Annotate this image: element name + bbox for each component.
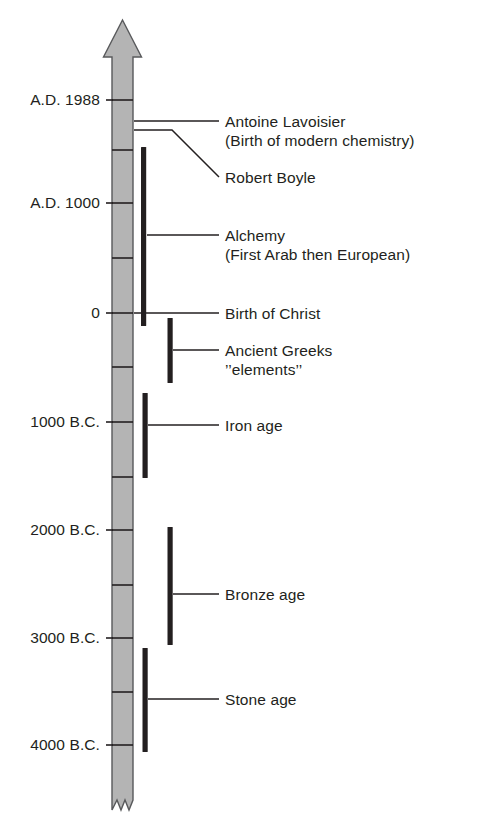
event-label-iron-age: Iron age: [225, 416, 283, 435]
timeline-figure: A.D. 1988 A.D. 1000 0 1000 B.C. 2000 B.C…: [0, 0, 483, 835]
event-title-ancient-greeks: Ancient Greeks: [225, 342, 332, 359]
bar-ancient-greeks: [168, 318, 173, 383]
axis-label-2000-bc: 2000 B.C.: [30, 521, 100, 539]
event-subtitle-antoine-lavoisier: (Birth of modern chemistry): [225, 131, 415, 150]
axis-label-ad-1988: A.D. 1988: [30, 91, 100, 109]
era-span-bars: [141, 147, 173, 752]
event-label-antoine-lavoisier: Antoine Lavoisier (Birth of modern chemi…: [225, 112, 415, 150]
event-subtitle-alchemy: (First Arab then European): [225, 245, 410, 264]
event-label-alchemy: Alchemy (First Arab then European): [225, 226, 410, 264]
event-label-birth-of-christ: Birth of Christ: [225, 304, 320, 323]
event-label-ancient-greeks: Ancient Greeks ’’elements’’: [225, 341, 332, 379]
event-title-bronze-age: Bronze age: [225, 586, 305, 603]
event-subtitle-ancient-greeks: ’’elements’’: [225, 360, 332, 379]
bar-bronze-age: [168, 527, 173, 645]
event-label-robert-boyle: Robert Boyle: [225, 168, 316, 187]
event-title-stone-age: Stone age: [225, 691, 297, 708]
event-title-robert-boyle: Robert Boyle: [225, 169, 316, 186]
bar-stone-age: [143, 648, 148, 752]
axis-label-3000-bc: 3000 B.C.: [30, 629, 100, 647]
axis-label-4000-bc: 4000 B.C.: [30, 736, 100, 754]
bar-iron-age: [143, 393, 148, 478]
leader-robert-boyle: [134, 130, 219, 177]
event-title-alchemy: Alchemy: [225, 227, 285, 244]
event-title-antoine-lavoisier: Antoine Lavoisier: [225, 113, 346, 130]
bar-alchemy: [141, 147, 146, 326]
event-label-stone-age: Stone age: [225, 690, 297, 709]
axis-label-1000-bc: 1000 B.C.: [30, 413, 100, 431]
event-title-iron-age: Iron age: [225, 417, 283, 434]
event-label-bronze-age: Bronze age: [225, 585, 305, 604]
event-title-birth-of-christ: Birth of Christ: [225, 305, 320, 322]
axis-label-zero: 0: [91, 304, 100, 322]
axis-label-ad-1000: A.D. 1000: [30, 194, 100, 212]
